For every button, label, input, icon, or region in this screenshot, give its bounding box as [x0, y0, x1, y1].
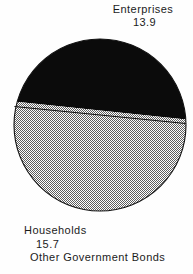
chart-caption: Other Government Bonds	[24, 251, 193, 265]
households-name: Households	[24, 224, 193, 238]
label-enterprises: Enterprises 13.9	[0, 3, 193, 29]
label-households: Households 15.7 Other Government Bonds	[24, 224, 193, 265]
pie-slice-households	[8, 101, 192, 222]
enterprises-value: 13.9	[0, 16, 193, 29]
enterprises-name: Enterprises	[0, 3, 193, 16]
pie-chart-figure: Enterprises 13.9 Households 15.7 Other G…	[0, 0, 193, 274]
households-value: 15.7	[24, 238, 193, 252]
